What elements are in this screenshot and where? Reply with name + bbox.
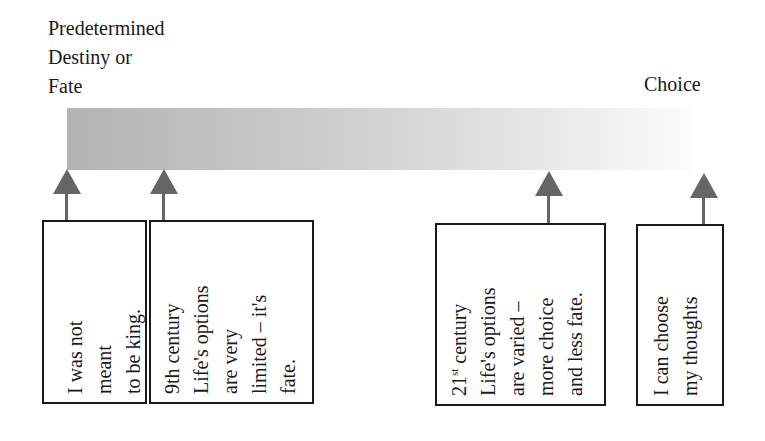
arrow-stem <box>547 195 550 223</box>
note-line: limited – it's <box>245 222 274 394</box>
note-line: my thoughts <box>676 226 705 396</box>
note-line-number: 21 <box>448 376 470 396</box>
note-box-9th-century: 9th century Life's options are very limi… <box>149 220 314 404</box>
arrow-stem <box>702 197 705 224</box>
note-line: Life's options <box>474 225 503 396</box>
note-line: 21st century <box>445 225 474 396</box>
arrow-head-icon <box>690 173 718 198</box>
arrow-stem <box>65 193 68 220</box>
note-line: more choice <box>532 225 561 396</box>
choice-label: Choice <box>644 72 701 96</box>
note-line-rest: century <box>448 304 470 369</box>
arrow-up-icon <box>535 171 565 224</box>
fate-label-line-2: Destiny or <box>48 43 165 72</box>
arrow-head-icon <box>53 169 81 194</box>
note-text: I can choose my thoughts <box>638 226 722 404</box>
fate-to-choice-gradient-bar <box>67 108 692 170</box>
note-line: are very <box>216 222 245 394</box>
note-line: fate. <box>274 222 303 394</box>
note-text: 9th century Life's options are very limi… <box>151 222 312 402</box>
note-line: 9th century <box>158 222 187 394</box>
note-box-not-meant-to-be-king: I was not meant to be king. <box>42 220 147 404</box>
arrow-up-icon <box>150 169 180 221</box>
note-line: Life's options <box>187 222 216 394</box>
note-line: I can choose <box>647 226 676 396</box>
fate-label-line-3: Fate <box>48 72 165 101</box>
note-line: are varied – <box>503 225 532 396</box>
arrow-head-icon <box>535 171 563 196</box>
arrow-up-icon <box>690 173 720 225</box>
note-text: I was not meant to be king. <box>44 222 145 402</box>
note-line: meant <box>90 222 119 394</box>
note-line: and less fate. <box>561 225 590 396</box>
arrow-head-icon <box>150 169 178 194</box>
arrow-up-icon <box>53 169 83 221</box>
note-box-21st-century: 21st century Life's options are varied –… <box>435 223 606 406</box>
note-line: I was not <box>61 222 90 394</box>
arrow-stem <box>162 193 165 220</box>
note-text: 21st century Life's options are varied –… <box>437 225 604 404</box>
note-box-choose-thoughts: I can choose my thoughts <box>636 224 724 406</box>
ordinal-suffix: st <box>448 369 460 376</box>
note-line: to be king. <box>119 222 148 394</box>
fate-label: Predetermined Destiny or Fate <box>48 14 165 101</box>
fate-label-line-1: Predetermined <box>48 14 165 43</box>
